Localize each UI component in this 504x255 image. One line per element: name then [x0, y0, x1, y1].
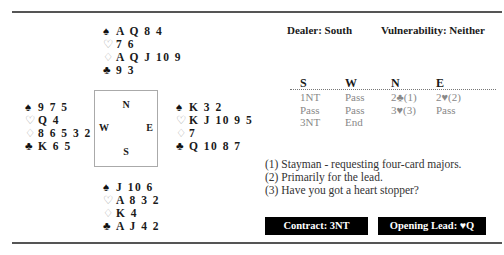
east-hearts: ♡K J 10 9 5: [176, 114, 253, 127]
diamond-outline-icon: ♢: [103, 51, 116, 64]
bidding-header: S W N E: [290, 76, 496, 88]
south-diamonds: ♢K 4: [103, 207, 160, 220]
club-icon: ♣: [103, 220, 116, 233]
header-east: E: [436, 76, 444, 91]
spade-icon: ♠: [103, 181, 116, 194]
bidding-notes: (1) Stayman - requesting four-card major…: [265, 158, 461, 197]
vulnerability-info: Vulnerability: Neither: [381, 24, 485, 36]
hand-south: ♠J 10 6 ♡A 8 3 2 ♢K 4 ♣A J 4 2: [103, 181, 160, 233]
heart-outline-icon: ♡: [176, 114, 189, 127]
bid-row: Pass Pass 3♥(3) Pass: [290, 104, 496, 117]
heart-outline-icon: ♡: [25, 114, 38, 127]
bid: 3♥(3): [391, 104, 416, 116]
south-spades: ♠J 10 6: [103, 181, 160, 194]
hand-east: ♠K 3 2 ♡K J 10 9 5 ♢7 ♣Q 10 8 7: [176, 101, 253, 153]
bid: Pass: [345, 91, 365, 103]
bid: Pass: [345, 104, 365, 116]
compass-south: S: [95, 146, 157, 157]
north-hearts: ♡7 6: [103, 38, 182, 51]
east-spades: ♠K 3 2: [176, 101, 253, 114]
east-diamonds: ♢7: [176, 127, 253, 140]
bid: Pass: [300, 104, 320, 116]
compass-east: E: [146, 122, 153, 133]
top-rule: [12, 11, 502, 13]
spade-icon: ♠: [25, 101, 38, 114]
bid-row: 1NT Pass 2♣(1) 2♥(2): [290, 91, 496, 104]
north-diamonds: ♢A Q J 10 9: [103, 51, 182, 64]
compass-north: N: [95, 99, 157, 110]
bid: 2♣(1): [391, 91, 417, 103]
bid: Pass: [436, 104, 456, 116]
west-spades: ♠9 7 5: [25, 101, 92, 114]
east-clubs: ♣Q 10 8 7: [176, 140, 253, 153]
diamond-outline-icon: ♢: [25, 127, 38, 140]
compass-west: W: [99, 122, 109, 133]
north-spades: ♠A Q 8 4: [103, 25, 182, 38]
bidding-table: S W N E 1NT Pass 2♣(1) 2♥(2) Pass Pass 3…: [290, 76, 496, 129]
opening-lead-label: Opening Lead: ♥Q: [378, 217, 486, 235]
compass-box: N W E S: [94, 90, 158, 167]
bottom-rule: [12, 242, 502, 244]
spade-icon: ♠: [103, 25, 116, 38]
bid: End: [345, 116, 363, 128]
club-icon: ♣: [25, 140, 38, 153]
south-hearts: ♡A 8 3 2: [103, 194, 160, 207]
west-hearts: ♡Q 4: [25, 114, 92, 127]
header-south: S: [300, 76, 307, 91]
club-icon: ♣: [176, 140, 189, 153]
note-1: (1) Stayman - requesting four-card major…: [265, 158, 461, 171]
west-diamonds: ♢8 6 5 3 2: [25, 127, 92, 140]
diamond-outline-icon: ♢: [103, 207, 116, 220]
south-clubs: ♣A J 4 2: [103, 220, 160, 233]
header-west: W: [345, 76, 357, 91]
note-3: (3) Have you got a heart stopper?: [265, 184, 461, 197]
heart-outline-icon: ♡: [103, 38, 116, 51]
header-north: N: [391, 76, 400, 91]
north-clubs: ♣9 3: [103, 64, 182, 77]
west-clubs: ♣K 6 5: [25, 140, 92, 153]
hand-north: ♠A Q 8 4 ♡7 6 ♢A Q J 10 9 ♣9 3: [103, 25, 182, 77]
bid-row: 3NT End: [290, 116, 496, 129]
dealer-info: Dealer: South: [287, 24, 352, 36]
contract-label: Contract: 3NT: [265, 217, 368, 235]
bid: 1NT: [300, 91, 320, 103]
spade-icon: ♠: [176, 101, 189, 114]
heart-outline-icon: ♡: [103, 194, 116, 207]
diamond-outline-icon: ♢: [176, 127, 189, 140]
bid: 2♥(2): [436, 91, 461, 103]
hand-west: ♠9 7 5 ♡Q 4 ♢8 6 5 3 2 ♣K 6 5: [25, 101, 92, 153]
bid: 3NT: [300, 116, 320, 128]
club-icon: ♣: [103, 64, 116, 77]
note-2: (2) Primarily for the lead.: [265, 171, 461, 184]
